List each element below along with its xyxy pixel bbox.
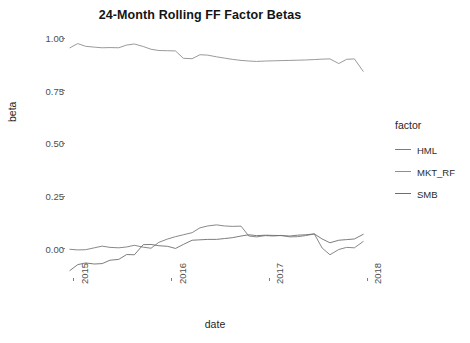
- legend-line-icon: [395, 167, 411, 177]
- legend-item-mkt_rf[interactable]: MKT_RF: [395, 162, 470, 182]
- legend-entries: HMLMKT_RFSMB: [395, 140, 470, 204]
- series-line-mkt_rf: [70, 44, 363, 72]
- legend-item-label: HML: [417, 145, 437, 156]
- legend-item-label: SMB: [417, 189, 438, 200]
- legend: factor HMLMKT_RFSMB: [395, 119, 470, 206]
- legend-title: factor: [395, 119, 470, 131]
- legend-item-label: MKT_RF: [417, 167, 455, 178]
- legend-item-smb[interactable]: SMB: [395, 184, 470, 204]
- legend-line-icon: [395, 189, 411, 199]
- legend-line-icon: [395, 145, 411, 155]
- chart-root: 24-Month Rolling FF Factor Betas beta da…: [0, 0, 470, 343]
- legend-item-hml[interactable]: HML: [395, 140, 470, 160]
- series-line-smb: [70, 234, 363, 271]
